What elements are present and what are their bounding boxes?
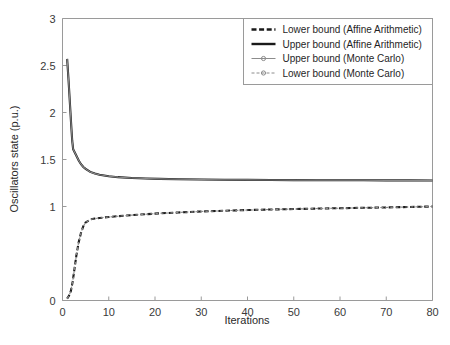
x-tick-label: 50 (288, 306, 300, 318)
x-tick-label: 60 (334, 306, 346, 318)
x-tick-label: 20 (149, 306, 161, 318)
x-axis-title: Iterations (224, 314, 270, 326)
y-tick-label: 1.5 (40, 154, 55, 166)
oscillator-bounds-chart: 01020304050607080 011.522.53 Iterations … (0, 0, 450, 345)
x-tick-label: 80 (426, 306, 438, 318)
x-tick-label: 70 (380, 306, 392, 318)
legend-label: Lower bound (Monte Carlo) (283, 68, 405, 79)
y-tick-label: 2.5 (40, 60, 55, 72)
legend-label: Upper bound (Monte Carlo) (283, 53, 405, 64)
legend-label: Lower bound (Affine Arithmetic) (283, 24, 422, 35)
y-tick-label: 0 (49, 295, 55, 307)
y-tick-label: 2 (49, 107, 55, 119)
x-tick-label: 10 (103, 306, 115, 318)
x-tick-label: 0 (59, 306, 65, 318)
y-tick-label: 1 (49, 201, 55, 213)
x-tick-label: 30 (195, 306, 207, 318)
legend-label: Upper bound (Affine Arithmetic) (283, 39, 422, 50)
y-axis-title: Oscillators state (p.u.) (8, 106, 20, 213)
chart-legend: Lower bound (Affine Arithmetic)Upper bou… (244, 19, 433, 85)
y-tick-label: 3 (49, 13, 55, 25)
